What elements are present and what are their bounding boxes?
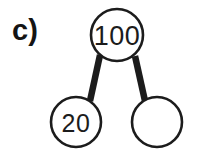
- part-letter-label: c): [12, 14, 38, 46]
- part-node-right-circle: [132, 97, 182, 147]
- part-node-left-value: 20: [62, 109, 91, 137]
- number-bond-svg: 100 20 c): [0, 0, 198, 156]
- number-bond-figure: 100 20 c): [0, 0, 198, 156]
- link-whole-to-left-part: [90, 55, 100, 101]
- link-whole-to-right-part: [135, 56, 145, 101]
- whole-node-value: 100: [94, 21, 141, 51]
